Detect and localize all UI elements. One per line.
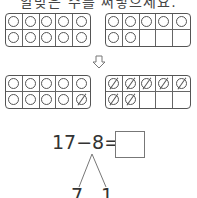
decomposition-lines bbox=[0, 0, 197, 198]
decomposition-right: 1 bbox=[101, 184, 113, 198]
decomposition-left: 7 bbox=[71, 184, 83, 198]
